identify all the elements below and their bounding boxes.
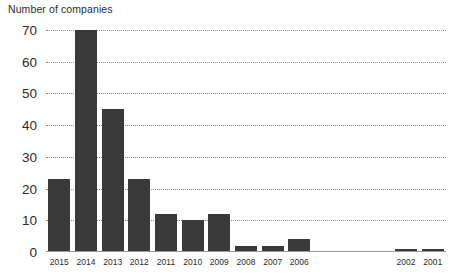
bar <box>208 214 230 252</box>
x-axis-tick-label: 2009 <box>210 257 229 267</box>
y-axis-tick-label: 20 <box>22 181 37 196</box>
y-axis-tick-label: 60 <box>22 54 37 69</box>
bar <box>182 220 204 252</box>
gridline <box>46 62 446 63</box>
y-axis-tick-label: 70 <box>22 23 37 38</box>
gridline <box>46 93 446 94</box>
y-axis-tick-label: 30 <box>22 149 37 164</box>
bar <box>75 30 97 252</box>
y-axis-tick-label: 40 <box>22 118 37 133</box>
gridline <box>46 30 446 31</box>
y-axis-tick-label: 50 <box>22 86 37 101</box>
x-axis-tick-label: 2014 <box>77 257 96 267</box>
y-axis-tick-label: 0 <box>29 245 37 260</box>
plot-area: 010203040506070 201520142013201220112010… <box>46 30 446 252</box>
x-axis-tick-label: 2006 <box>290 257 309 267</box>
x-axis-tick-label: 2015 <box>50 257 69 267</box>
chart-title: Number of companies <box>8 3 113 15</box>
x-axis-tick-label: 2012 <box>130 257 149 267</box>
y-axis-tick-label: 10 <box>22 213 37 228</box>
x-axis-tick-label: 2013 <box>103 257 122 267</box>
x-axis-tick-label: 2007 <box>263 257 282 267</box>
x-axis-tick-label: 2010 <box>183 257 202 267</box>
bar <box>102 109 124 252</box>
x-axis-tick-label: 2011 <box>157 257 175 267</box>
x-axis-tick-label: 2008 <box>237 257 256 267</box>
bar <box>155 214 177 252</box>
bar <box>128 179 150 252</box>
x-axis-baseline <box>46 251 446 253</box>
x-axis-tick-label: 2002 <box>397 257 416 267</box>
x-axis-tick-label: 2001 <box>423 257 442 267</box>
bar <box>48 179 70 252</box>
bar-chart: Number of companies 010203040506070 2015… <box>0 0 454 280</box>
